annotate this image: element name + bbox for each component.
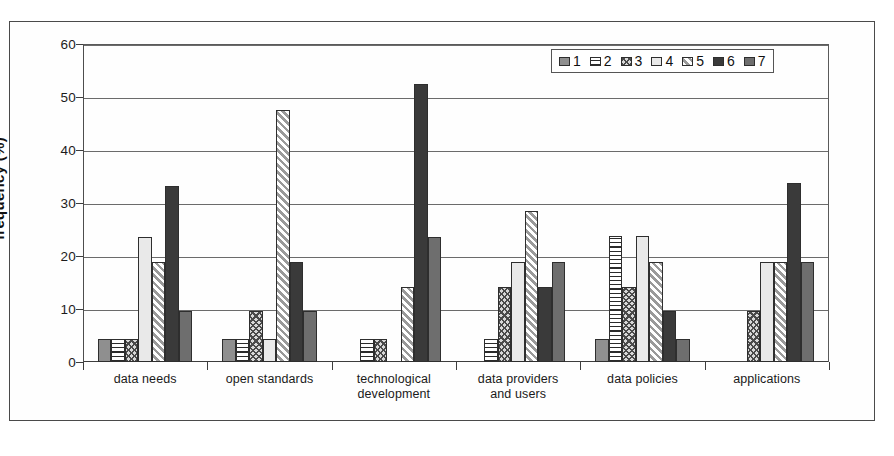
bar-series-3 — [498, 287, 512, 362]
x-axis-label: data needs — [83, 372, 207, 402]
bar-series-4 — [760, 262, 774, 362]
legend-label: 2 — [604, 54, 612, 68]
legend-swatch-icon — [713, 57, 724, 66]
x-axis-labels: data needsopen standardstechnologicaldev… — [83, 372, 829, 402]
bar-group — [456, 44, 580, 362]
legend-item-5[interactable]: 5 — [682, 54, 704, 68]
legend-swatch-icon — [744, 57, 755, 66]
y-tick-label: 0 — [68, 355, 76, 370]
bar-series-3 — [747, 311, 761, 362]
x-axis-label-line: open standards — [207, 372, 331, 387]
x-axis-label-line: applications — [705, 372, 829, 387]
x-axis-label-line: and users — [456, 387, 580, 402]
legend-swatch-icon — [682, 57, 693, 66]
legend: 1234567 — [551, 49, 774, 73]
y-tick-label: 60 — [61, 37, 76, 52]
bar-series-7 — [801, 262, 815, 362]
x-axis-label: data providersand users — [456, 372, 580, 402]
bar-series-7 — [179, 311, 193, 362]
x-tick-mark — [83, 362, 84, 370]
x-tick-mark — [207, 362, 208, 370]
bar-series-6 — [787, 183, 801, 362]
legend-label: 1 — [573, 54, 581, 68]
bar-series-1 — [595, 339, 609, 362]
x-axis-label-line: development — [332, 387, 456, 402]
x-tick-mark — [580, 362, 581, 370]
legend-swatch-icon — [621, 57, 632, 66]
bar-series-3 — [249, 311, 263, 362]
y-axis-ticks: 0102030405060 — [40, 44, 76, 362]
bar-series-4 — [511, 262, 525, 362]
legend-item-3[interactable]: 3 — [621, 54, 643, 68]
legend-swatch-icon — [651, 57, 662, 66]
bar-series-2 — [236, 339, 250, 362]
legend-label: 4 — [665, 54, 673, 68]
x-axis-label-line: data providers — [456, 372, 580, 387]
y-tick-label: 10 — [61, 302, 76, 317]
bar-series-7 — [552, 262, 566, 362]
bar-group — [705, 44, 829, 362]
bar-series-3 — [125, 339, 139, 362]
legend-swatch-icon — [590, 57, 601, 66]
legend-item-2[interactable]: 2 — [590, 54, 612, 68]
y-tick-label: 30 — [61, 196, 76, 211]
x-axis-label-line: data needs — [83, 372, 207, 387]
legend-label: 5 — [696, 54, 704, 68]
bar-series-2 — [484, 339, 498, 362]
bar-series-2 — [111, 339, 125, 362]
legend-item-1[interactable]: 1 — [559, 54, 581, 68]
bar-series-4 — [138, 237, 152, 362]
bar-chart-figure: frequency (%) 0102030405060 data needsop… — [0, 0, 894, 456]
bar-series-1 — [222, 339, 236, 362]
bar-series-6 — [663, 311, 677, 362]
y-tick-label: 50 — [61, 90, 76, 105]
bar-series-4 — [636, 236, 650, 362]
legend-label: 7 — [758, 54, 766, 68]
bar-series-6 — [538, 287, 552, 362]
bar-series-7 — [303, 311, 317, 362]
legend-label: 3 — [635, 54, 643, 68]
bar-series-2 — [609, 236, 623, 362]
bar-series-5 — [152, 262, 166, 362]
y-tick-label: 40 — [61, 143, 76, 158]
bar-groups — [83, 44, 829, 362]
bar-series-5 — [276, 110, 290, 362]
x-axis-tick-marks — [83, 362, 829, 371]
bar-series-6 — [165, 186, 179, 362]
bar-series-6 — [414, 84, 428, 362]
bar-series-5 — [774, 262, 788, 362]
y-axis-title: frequency (%) — [0, 137, 7, 240]
x-axis-label: data policies — [580, 372, 704, 402]
bar-series-3 — [622, 287, 636, 362]
bar-series-7 — [428, 237, 442, 362]
bar-series-2 — [360, 339, 374, 362]
x-tick-mark — [705, 362, 706, 370]
bar-series-6 — [290, 262, 304, 362]
bar-series-3 — [374, 339, 388, 362]
legend-item-7[interactable]: 7 — [744, 54, 766, 68]
x-axis-label-line: technological — [332, 372, 456, 387]
legend-item-6[interactable]: 6 — [713, 54, 735, 68]
bar-series-5 — [525, 211, 539, 362]
x-tick-mark — [332, 362, 333, 370]
bar-series-7 — [676, 339, 690, 362]
bar-series-5 — [649, 262, 663, 362]
bar-series-1 — [98, 339, 112, 362]
bar-series-4 — [263, 339, 277, 362]
x-axis-label: technologicaldevelopment — [332, 372, 456, 402]
bar-group — [83, 44, 207, 362]
x-axis-label: applications — [705, 372, 829, 402]
bar-series-5 — [401, 287, 415, 362]
legend-swatch-icon — [559, 57, 570, 66]
x-axis-label-line: data policies — [580, 372, 704, 387]
x-axis-label: open standards — [207, 372, 331, 402]
y-tick-label: 20 — [61, 249, 76, 264]
legend-label: 6 — [727, 54, 735, 68]
bar-group — [332, 44, 456, 362]
bar-group — [580, 44, 704, 362]
legend-item-4[interactable]: 4 — [651, 54, 673, 68]
x-tick-mark — [829, 362, 830, 370]
bar-group — [207, 44, 331, 362]
x-tick-mark — [456, 362, 457, 370]
